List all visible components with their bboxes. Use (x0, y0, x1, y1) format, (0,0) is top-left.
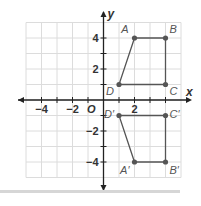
vertex-label: B (170, 23, 177, 35)
divider (0, 190, 180, 193)
x-axis-left-arrow-icon (18, 97, 24, 103)
vertex-label: C (170, 85, 178, 97)
quadrilateral-A'B'C'D' (119, 116, 166, 163)
quadrilateral-ABCD (119, 38, 166, 85)
x-tick-label: −4 (35, 103, 48, 115)
coordinate-plane: −4−2242−2−4OxyABCDA′B′C′D′ (0, 0, 201, 206)
origin-label: O (87, 103, 96, 115)
x-axis-label: x (185, 85, 194, 99)
y-tick-label: 2 (92, 63, 98, 75)
vertex-point (163, 35, 168, 40)
y-tick-label: −4 (86, 156, 99, 168)
y-tick-label: −2 (86, 125, 99, 137)
vertex-point (163, 159, 168, 164)
x-tick-label: −2 (66, 103, 79, 115)
y-tick-label: 4 (92, 32, 99, 44)
vertex-label: A (120, 23, 128, 35)
vertex-label: B′ (170, 164, 180, 176)
y-axis-up-arrow-icon (101, 11, 107, 17)
vertex-point (132, 35, 137, 40)
vertex-point (132, 159, 137, 164)
vertex-label: A′ (119, 164, 130, 176)
vertex-point (116, 113, 121, 118)
vertex-point (163, 82, 168, 87)
x-tick-label: 2 (131, 103, 137, 115)
vertex-label: D′ (104, 108, 115, 120)
vertex-label: D (106, 85, 114, 97)
vertex-point (163, 113, 168, 118)
vertex-label: C′ (170, 108, 181, 120)
y-axis-label: y (107, 7, 116, 21)
vertex-point (116, 82, 121, 87)
labels: −4−2242−2−4OxyABCDA′B′C′D′ (35, 7, 194, 176)
